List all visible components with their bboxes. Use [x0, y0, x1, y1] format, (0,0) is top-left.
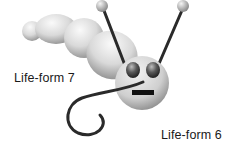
left-antenna-ball	[96, 0, 108, 12]
mouth	[132, 90, 154, 95]
right-eye	[146, 62, 160, 78]
right-antenna-stalk	[158, 8, 183, 66]
life-form-7-label: Life-form 7	[14, 71, 75, 85]
right-antenna-ball	[177, 0, 189, 12]
life-form-6-label: Life-form 6	[161, 128, 222, 142]
left-eye	[126, 62, 140, 78]
